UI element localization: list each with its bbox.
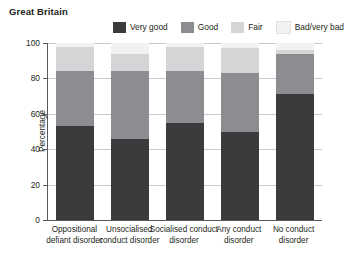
bar-segment[interactable]	[221, 48, 259, 73]
legend-swatch-very-good	[113, 22, 126, 33]
legend-swatch-fair	[231, 22, 244, 33]
y-tick-label-0: 0	[35, 215, 40, 225]
legend-item-bad-very-bad[interactable]: Bad/very bad	[276, 21, 344, 34]
bar-group	[48, 43, 322, 220]
chart-title: Great Britain	[9, 6, 68, 17]
legend-label-good: Good	[198, 22, 219, 33]
bar-segment[interactable]	[166, 47, 204, 72]
y-tick-label-60: 60	[31, 109, 40, 119]
bar-segment[interactable]	[221, 73, 259, 131]
y-tick-label-20: 20	[31, 180, 40, 190]
legend-label-bad-very-bad: Bad/very bad	[295, 22, 344, 33]
legend-item-very-good[interactable]: Very good	[113, 22, 168, 33]
bar-segment[interactable]	[221, 132, 259, 221]
legend-item-fair[interactable]: Fair	[231, 22, 262, 33]
bar-stack[interactable]	[111, 43, 149, 220]
legend-label-very-good: Very good	[130, 22, 168, 33]
bar-segment[interactable]	[111, 54, 149, 72]
gridline-0	[48, 220, 322, 221]
bar-segment[interactable]	[276, 54, 314, 95]
bar-stack[interactable]	[276, 43, 314, 220]
bar-segment[interactable]	[166, 123, 204, 220]
bar-segment[interactable]	[56, 126, 94, 220]
bar-segment[interactable]	[276, 94, 314, 220]
bar-segment[interactable]	[276, 43, 314, 50]
legend-swatch-good	[181, 22, 194, 33]
bar-stack[interactable]	[221, 43, 259, 220]
bar-segment[interactable]	[56, 71, 94, 126]
bar-segment[interactable]	[111, 139, 149, 220]
bar-segment[interactable]	[56, 47, 94, 72]
bar-stack[interactable]	[166, 43, 204, 220]
x-axis-labels: Oppositional defiant disorderUnsocialise…	[47, 225, 321, 271]
bar-segment[interactable]	[111, 43, 149, 54]
x-axis-label: No conduct disorder	[258, 225, 330, 246]
plot-area: Percentage 020406080100	[47, 43, 321, 220]
bar-segment[interactable]	[166, 71, 204, 122]
legend-label-fair: Fair	[248, 22, 262, 33]
legend-swatch-bad-very-bad	[276, 21, 291, 34]
y-tick-label-80: 80	[31, 73, 40, 83]
chart-legend: Very good Good Fair Bad/very bad	[113, 21, 344, 34]
bar-segment[interactable]	[111, 71, 149, 138]
y-tick-label-40: 40	[31, 144, 40, 154]
bar-stack[interactable]	[56, 43, 94, 220]
y-tick-0	[43, 220, 48, 221]
y-tick-label-100: 100	[26, 38, 40, 48]
legend-item-good[interactable]: Good	[181, 22, 219, 33]
